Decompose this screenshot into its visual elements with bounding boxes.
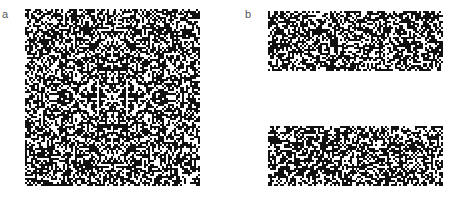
panel-a-label: a [2,9,8,20]
panel-a-random-dot-pattern [25,9,200,186]
panel-b-top-random-dot-pattern [268,11,443,71]
panel-b-bottom-random-dot-pattern [268,126,443,186]
panel-b-label: b [245,9,251,20]
